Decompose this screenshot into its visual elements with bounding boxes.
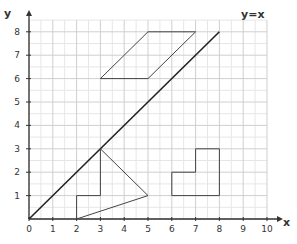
x-tick-label: 5 [145,224,151,234]
diagonal-line-label: y=x [241,8,264,21]
y-axis-arrow-icon [26,10,32,16]
y-tick-label: 1 [14,191,20,201]
x-tick-label: 10 [261,224,273,234]
x-tick-label: 2 [74,224,80,234]
x-tick-label: 9 [240,224,246,234]
y-tick-label: 7 [14,50,20,60]
x-tick-label: 4 [121,224,127,234]
coordinate-grid-chart: 01234567891012345678 x y y=x [0,0,297,244]
x-tick-label: 6 [169,224,175,234]
y-tick-label: 6 [14,74,20,84]
y-axis-label: y [4,7,11,20]
y-tick-label: 4 [14,120,20,130]
x-tick-label: 8 [217,224,223,234]
y-tick-label: 8 [14,27,20,37]
y-tick-label: 2 [14,167,20,177]
y-tick-label: 5 [14,97,20,107]
x-tick-label: 1 [50,224,56,234]
x-tick-label: 3 [98,224,104,234]
y-tick-label: 3 [14,144,20,154]
x-tick-label: 7 [193,224,199,234]
x-tick-label: 0 [26,224,32,234]
x-axis-label: x [283,216,290,229]
